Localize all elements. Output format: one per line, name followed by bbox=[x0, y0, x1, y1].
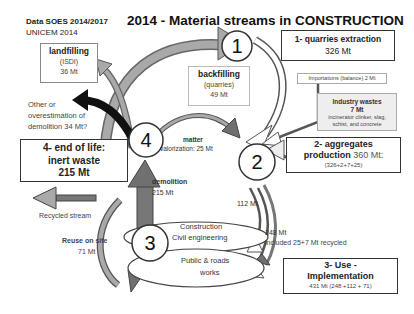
aggregates-value: 360 Mt: bbox=[353, 150, 383, 160]
demolition-label-1: demolition bbox=[152, 177, 187, 187]
landfilling-sub: (ISDI) bbox=[41, 57, 97, 67]
backfilling-sub: (quarries) bbox=[189, 80, 249, 90]
landfilling-title: landfilling bbox=[41, 46, 97, 57]
flow-248-label: 248 Mt bbox=[265, 228, 286, 238]
end-of-life-value: 215 Mt bbox=[21, 167, 127, 180]
included-recycled-label: included 25+7 Mt recycled bbox=[265, 238, 347, 248]
other-label-3: demolition 34 Mt? bbox=[28, 122, 87, 132]
aggregates-title-line-2: production 360 Mt: bbox=[287, 150, 400, 161]
reuse-label-2: 71 Mt bbox=[78, 247, 96, 257]
landfilling-box: landfilling (ISDI) 36 Mt bbox=[40, 43, 98, 83]
reuse-label-1: Reuse on site bbox=[62, 236, 108, 246]
backfilling-title: backfilling bbox=[189, 69, 249, 80]
industry-wastes-title: Industry wastes bbox=[318, 98, 396, 106]
industry-wastes-box: Industry wastes 7 Mt incinerator clinker… bbox=[317, 93, 397, 131]
source-line-1: Data SOES 2014/2017 bbox=[26, 17, 108, 27]
industry-wastes-value: 7 Mt bbox=[318, 106, 396, 114]
node-4-number: 4 bbox=[131, 125, 161, 155]
industry-wastes-desc-2: schist, and concrete bbox=[318, 121, 396, 128]
backfilling-value: 49 Mt bbox=[189, 90, 249, 100]
use-title-2: Implementation bbox=[284, 271, 397, 282]
flow-2-to-3-c bbox=[264, 185, 276, 265]
end-of-life-box: 4- end of life: inert waste 215 Mt bbox=[20, 139, 128, 182]
aggregates-title-2: production bbox=[304, 150, 351, 160]
quarries-extraction-title: 1- quarries extraction bbox=[282, 33, 394, 45]
end-of-life-title-1: 4- end of life: bbox=[21, 142, 127, 155]
demolition-label-2: 215 Mt bbox=[152, 188, 173, 198]
recycled-stream-arrow-body bbox=[56, 195, 96, 201]
importations-box: Importations (balance) 2 Mt bbox=[297, 73, 387, 84]
construction-label-1: Construction bbox=[180, 222, 222, 232]
recycled-stream-label: Recycled stream bbox=[39, 211, 91, 221]
aggregates-production-box: 2- aggregates production 360 Mt: (326+2+… bbox=[286, 137, 401, 173]
node-1-number: 1 bbox=[222, 31, 252, 61]
recycled-stream-arrow-head bbox=[33, 187, 56, 209]
industry-wastes-desc-1: incinerator clinker, slag, bbox=[318, 114, 396, 121]
node-2-number: 2 bbox=[242, 147, 272, 177]
page-title: 2014 - Material streams in CONSTRUCTION bbox=[127, 13, 404, 28]
node-3-number: 3 bbox=[135, 228, 165, 258]
arrow-head-other bbox=[72, 89, 88, 111]
other-label-2: overestimation of bbox=[28, 111, 85, 121]
quarries-extraction-value: 326 Mt bbox=[282, 45, 394, 57]
quarries-extraction-box: 1- quarries extraction 326 Mt bbox=[281, 30, 395, 61]
use-value: 431 Mt (248 +112 + 71) bbox=[284, 282, 397, 290]
matter-label-2: valorization: 25 Mt bbox=[160, 144, 213, 154]
aggregates-title-1: 2- aggregates bbox=[287, 139, 400, 150]
public-works-label-2: works bbox=[200, 268, 220, 278]
landfilling-value: 36 Mt bbox=[41, 67, 97, 77]
backfilling-box: backfilling (quarries) 49 Mt bbox=[188, 66, 250, 106]
use-title-1: 3- Use - bbox=[284, 260, 397, 271]
use-implementation-box: 3- Use - Implementation 431 Mt (248 +112… bbox=[283, 258, 398, 294]
source-line-2: UNICEM 2014 bbox=[26, 28, 78, 38]
end-of-life-title-2: inert waste bbox=[21, 155, 127, 168]
flow-112-label: 112 Mt bbox=[237, 199, 258, 209]
public-works-label-1: Public & roads bbox=[181, 256, 229, 266]
other-label-1: Other or bbox=[28, 100, 56, 110]
construction-label-2: Civil engineering bbox=[172, 233, 227, 243]
aggregates-formula: (326+2+7+25) bbox=[287, 161, 400, 169]
